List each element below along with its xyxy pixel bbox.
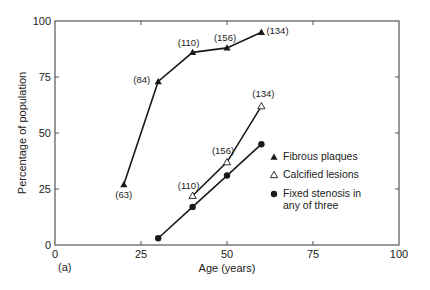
circle-marker (189, 204, 195, 210)
circle-marker (258, 141, 264, 147)
y-tick-label: 100 (33, 15, 51, 27)
x-tick-label: 100 (390, 248, 408, 260)
filled-triangle-marker (120, 181, 127, 187)
circle-marker (271, 191, 277, 197)
legend-label: Fibrous plaques (283, 150, 358, 162)
point-annotation: (156) (214, 32, 236, 43)
legend-label: Calcified lesions (283, 168, 359, 180)
point-annotation: (134) (252, 88, 274, 99)
legend-label: any of three (283, 199, 339, 211)
y-tick-label: 50 (39, 127, 51, 139)
x-tick-label: 75 (307, 248, 319, 260)
series-group: (63)(84)(110)(156)(134)(110)(156)(134) (115, 25, 288, 241)
open-triangle-marker (270, 171, 277, 177)
legend-item: Fibrous plaques (270, 150, 357, 162)
series-fixed-stenosis-in-any-of-three (155, 141, 265, 241)
point-annotation: (63) (115, 189, 132, 200)
y-tick-label: 0 (45, 239, 51, 251)
x-tick-label: 25 (135, 248, 147, 260)
line-chart: 02550751000255075100 (63)(84)(110)(156)(… (0, 0, 430, 290)
x-axis-title: Age (years) (199, 262, 256, 274)
filled-triangle-marker (258, 29, 265, 35)
series-fibrous-plaques: (63)(84)(110)(156)(134) (115, 25, 288, 199)
open-triangle-marker (258, 103, 265, 109)
circle-marker (224, 172, 230, 178)
chart-container: 02550751000255075100 (63)(84)(110)(156)(… (0, 0, 430, 290)
panel-label: (a) (58, 261, 71, 273)
legend-item: Fixed stenosis inany of three (271, 187, 362, 211)
y-tick-label: 25 (39, 183, 51, 195)
axes: 02550751000255075100 (33, 15, 409, 260)
point-annotation: (110) (178, 37, 199, 48)
filled-triangle-marker (270, 153, 277, 159)
point-annotation: (110) (178, 180, 199, 191)
legend-label: Fixed stenosis in (283, 187, 361, 199)
plot-frame (55, 21, 399, 245)
legend-item: Calcified lesions (270, 168, 358, 180)
circle-marker (155, 235, 161, 241)
x-tick-label: 0 (52, 248, 58, 260)
point-annotation: (84) (133, 74, 150, 85)
series-line (158, 144, 261, 238)
point-annotation: (134) (266, 25, 288, 36)
legend: Fibrous plaquesCalcified lesionsFixed st… (270, 150, 361, 211)
x-tick-label: 50 (221, 248, 233, 260)
point-annotation: (156) (212, 145, 234, 156)
y-tick-label: 75 (39, 71, 51, 83)
y-axis-title: Percentage of population (16, 72, 28, 194)
